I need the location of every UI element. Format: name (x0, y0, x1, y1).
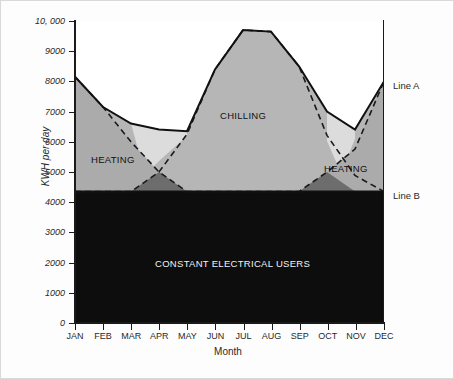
area-label-constant-users: CONSTANT ELECTRICAL USERS (155, 258, 310, 269)
x-tick-mark (103, 324, 104, 330)
chart-figure: CHILLING HEATING HEATING CONSTANT ELECTR… (0, 0, 454, 379)
y-axis-title: KWH per day (40, 97, 51, 217)
y-tick-mark (69, 142, 75, 143)
y-tick-label: 6000 (1, 137, 65, 147)
x-tick-label: DEC (374, 331, 393, 341)
x-tick-mark (300, 324, 301, 330)
y-tick-mark (69, 293, 75, 294)
x-tick-mark (244, 324, 245, 330)
y-tick-mark (69, 202, 75, 203)
y-tick-label: 2000 (1, 258, 65, 268)
callout-line-b: Line B (393, 190, 420, 201)
y-tick-label: 7000 (1, 107, 65, 117)
x-tick-mark (131, 324, 132, 330)
y-tick-mark (69, 81, 75, 82)
area-label-heating-left: HEATING (91, 154, 135, 165)
x-tick-label: APR (150, 331, 169, 341)
x-tick-mark (384, 324, 385, 330)
y-tick-label: 10, 000 (1, 16, 65, 26)
x-tick-mark (187, 324, 188, 330)
x-tick-label: JUL (236, 331, 252, 341)
x-tick-mark (75, 324, 76, 330)
y-tick-label: 9000 (1, 46, 65, 56)
x-tick-label: JUN (207, 331, 225, 341)
y-tick-label: 1000 (1, 288, 65, 298)
x-tick-mark (159, 324, 160, 330)
area-label-heating-right: HEATING (324, 163, 368, 174)
x-tick-label: JAN (66, 331, 83, 341)
y-tick-label: 3000 (1, 227, 65, 237)
callout-line-a: Line A (393, 80, 419, 91)
x-axis-title: Month (1, 346, 454, 357)
x-tick-label: OCT (318, 331, 337, 341)
x-tick-mark (215, 324, 216, 330)
y-tick-mark (69, 112, 75, 113)
x-tick-label: MAY (178, 331, 197, 341)
x-tick-label: FEB (94, 331, 112, 341)
y-tick-label: 5000 (1, 167, 65, 177)
y-tick-label: 4000 (1, 197, 65, 207)
y-tick-mark (69, 232, 75, 233)
x-tick-mark (328, 324, 329, 330)
y-tick-label: 8000 (1, 76, 65, 86)
x-tick-label: SEP (291, 331, 309, 341)
x-tick-mark (356, 324, 357, 330)
area-label-chilling: CHILLING (220, 110, 266, 121)
plot-right-border (383, 20, 384, 324)
x-tick-label: MAR (121, 331, 141, 341)
y-tick-mark (69, 263, 75, 264)
y-tick-mark (69, 172, 75, 173)
x-tick-label: AUG (262, 331, 282, 341)
y-tick-mark (69, 21, 75, 22)
x-tick-label: NOV (346, 331, 366, 341)
x-tick-mark (272, 324, 273, 330)
x-axis-line (74, 322, 385, 324)
y-tick-label: 0 (1, 318, 65, 328)
plot-area: CHILLING HEATING HEATING CONSTANT ELECTR… (75, 21, 384, 323)
y-tick-mark (69, 51, 75, 52)
